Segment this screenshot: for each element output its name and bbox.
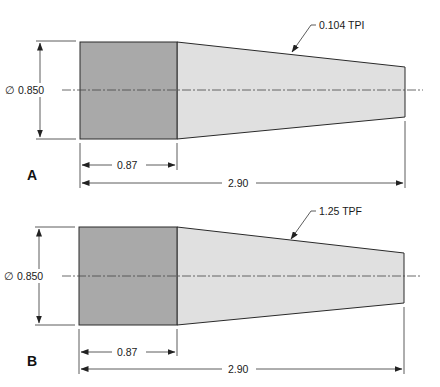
taper-leader-a xyxy=(292,25,316,52)
figure-a: ∅ 0.850 0.87 2.90 0.104 TPI A xyxy=(4,19,423,190)
taper-drawing: ∅ 0.850 0.87 2.90 0.104 TPI A ∅ 0.850 xyxy=(0,0,440,387)
figure-label-a: A xyxy=(27,167,37,183)
taper-section-a xyxy=(177,42,405,139)
diameter-label-b: ∅ 0.850 xyxy=(4,270,43,282)
cylinder-section-a xyxy=(80,42,177,139)
taper-leader-b xyxy=(291,211,316,239)
cyl-length-label-a: 0.87 xyxy=(117,159,138,171)
taper-callout-a: 0.104 TPI xyxy=(319,19,364,31)
overall-length-label-a: 2.90 xyxy=(228,177,249,189)
figure-b: ∅ 0.850 0.87 2.90 1.25 TPF B xyxy=(3,205,422,376)
overall-length-label-b: 2.90 xyxy=(228,363,249,375)
taper-callout-b: 1.25 TPF xyxy=(319,205,362,217)
cyl-length-label-b: 0.87 xyxy=(117,346,138,358)
diameter-label-a: ∅ 0.850 xyxy=(5,84,44,96)
figure-label-b: B xyxy=(27,353,37,369)
